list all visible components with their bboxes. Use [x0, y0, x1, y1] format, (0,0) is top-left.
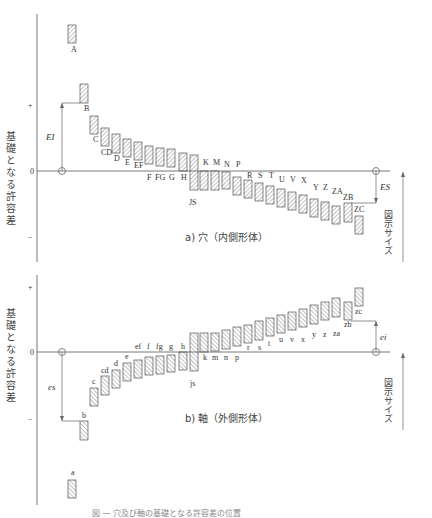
zone-label-s: s — [258, 343, 261, 352]
tolerance-zone-cd — [101, 376, 109, 395]
tolerance-zone-z — [321, 302, 329, 320]
tolerance-zone-zc — [355, 288, 363, 306]
tolerance-zone-T — [266, 186, 274, 204]
tolerance-zone-U — [277, 189, 285, 207]
tolerance-zone-za — [332, 298, 340, 317]
tolerance-zone-b — [80, 421, 88, 440]
tolerance-zone-ZA — [332, 206, 340, 224]
tolerance-zone-x — [299, 309, 307, 327]
zone-label-K: K — [203, 158, 209, 167]
zone-label-T: T — [269, 171, 274, 180]
zone-label-U: U — [279, 175, 285, 184]
tolerance-zone-EF — [134, 142, 142, 160]
ES-label: ES — [379, 182, 390, 192]
tolerance-zone-F — [145, 146, 153, 164]
y-axis-label-hole: 基礎となる許容差 — [5, 130, 16, 227]
zone-label-m: m — [212, 353, 219, 362]
tolerance-zone-ZC — [355, 216, 363, 234]
zone-label-X: X — [301, 176, 307, 185]
tolerance-zone-t — [266, 318, 274, 336]
tolerance-zone-FG — [156, 148, 164, 166]
zone-label-js: js — [189, 379, 195, 388]
size-label-shaft: 図示サイズ — [383, 378, 393, 423]
zone-label-cd: cd — [101, 366, 109, 375]
tolerance-zone-X — [299, 195, 307, 213]
zone-label-CD: CD — [101, 148, 112, 157]
tolerance-zone-Z — [321, 202, 329, 220]
tolerance-zone-A — [68, 25, 76, 43]
zone-label-Y: Y — [313, 183, 319, 192]
zone-label-H: H — [181, 173, 187, 182]
zone-label-JS: JS — [189, 198, 197, 207]
tolerance-zone-n — [222, 330, 230, 349]
zone-label-A: A — [71, 45, 77, 54]
figure-caption: 図 — 穴及び軸の基礎となる許容差の位置 — [92, 508, 241, 518]
tolerance-zone-a — [68, 480, 76, 498]
zone-label-ZC: ZC — [354, 205, 364, 214]
zone-label-k: k — [203, 353, 207, 362]
tolerance-zone-G — [167, 149, 175, 167]
tolerance-zone-p — [233, 327, 241, 346]
tolerance-zone-B — [80, 84, 88, 103]
tolerance-zone-fg — [156, 356, 164, 374]
tolerance-zone-d — [112, 370, 120, 388]
tolerance-zone-JS — [190, 155, 198, 190]
zone-label-G: G — [169, 173, 175, 182]
zone-label-n: n — [224, 353, 228, 362]
tolerance-zone-Y — [310, 199, 318, 217]
zone-label-fg: fg — [156, 342, 163, 351]
zone-label-g: g — [169, 342, 173, 351]
tolerance-zone-D — [112, 134, 120, 153]
zone-label-c: c — [92, 377, 96, 386]
size-label-hole: 図示サイズ — [383, 210, 393, 255]
zone-label-C: C — [93, 135, 98, 144]
zone-label-EF: EF — [134, 161, 144, 170]
tolerance-zone-V — [288, 192, 296, 210]
tolerance-zone-r — [244, 325, 252, 343]
zone-label-V: V — [290, 175, 296, 184]
zone-label-zb: zb — [344, 320, 352, 329]
tolerance-zone-e — [123, 363, 131, 381]
shaft-bars: abccddeefffgghjskmnprstuvxyzzazbzc — [68, 288, 363, 498]
zone-label-ZB: ZB — [343, 193, 353, 202]
tolerance-zone-M — [211, 171, 219, 190]
zone-label-zc: zc — [355, 307, 363, 316]
tolerance-zone-y — [310, 305, 318, 324]
zone-label-e: e — [125, 352, 129, 361]
shaft-panel: + 0 − 基礎となる許容差 es ei 図示サイズ abccddeefffgg… — [5, 275, 406, 505]
tolerance-zone-ef — [134, 360, 142, 378]
zone-label-h: h — [181, 342, 185, 351]
tick-minus-hole: − — [28, 233, 33, 242]
tick-zero-shaft: 0 — [30, 348, 34, 357]
zone-label-b: b — [82, 411, 86, 420]
tolerance-zone-N — [222, 172, 230, 189]
tolerance-zone-s — [255, 321, 263, 340]
zone-label-v: v — [290, 335, 294, 344]
zone-label-z: z — [323, 330, 327, 339]
tolerance-zone-u — [277, 315, 285, 333]
zone-label-x: x — [301, 335, 305, 344]
es-shaft-arrowhead — [60, 416, 64, 421]
tolerance-zone-C — [90, 116, 98, 134]
zone-label-M: M — [213, 158, 220, 167]
zone-label-r: r — [247, 343, 250, 352]
zone-label-E: E — [125, 158, 130, 167]
tolerance-zone-zb — [344, 302, 352, 320]
tolerance-zone-E — [123, 139, 131, 157]
zone-label-u: u — [279, 335, 283, 344]
tolerance-diagram: + 0 − 基礎となる許容差 EI ES 図示サイズ ABCCDDEEFFFGG… — [0, 0, 432, 518]
zone-label-d: d — [114, 359, 118, 368]
hole-title: a) 穴（内側形体） — [185, 231, 268, 243]
zone-label-D: D — [114, 154, 120, 163]
ei-shaft-label: ei — [380, 332, 387, 342]
tick-zero-hole: 0 — [30, 167, 34, 176]
tolerance-zone-m — [211, 333, 219, 351]
zone-label-FG: FG — [155, 173, 165, 182]
hole-bars: ABCCDDEEFFFGGHJSKMNPRSTUVXYZZAZBZC — [68, 25, 364, 234]
zone-label-y: y — [312, 330, 316, 339]
tolerance-zone-ZB — [344, 203, 352, 222]
es-shaft-label: es — [48, 382, 56, 392]
tolerance-zone-k — [200, 333, 208, 352]
tick-plus-hole: + — [28, 101, 33, 110]
zone-label-a: a — [71, 468, 75, 477]
